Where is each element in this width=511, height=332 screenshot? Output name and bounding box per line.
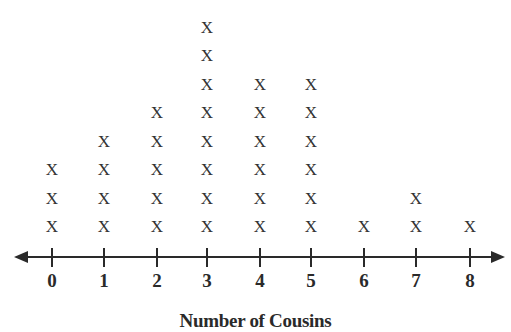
x-mark: X: [250, 161, 270, 178]
x-mark: X: [197, 104, 217, 121]
tick-label: 6: [352, 270, 376, 292]
x-mark: X: [94, 190, 114, 207]
x-mark: X: [147, 133, 167, 150]
tick-label: 3: [195, 270, 219, 292]
x-mark: X: [301, 190, 321, 207]
x-mark: X: [301, 76, 321, 93]
right-arrow-icon: [491, 251, 505, 263]
x-mark: X: [250, 133, 270, 150]
tick-label: 8: [458, 270, 482, 292]
x-mark: X: [197, 190, 217, 207]
x-mark: X: [197, 161, 217, 178]
x-mark: X: [42, 161, 62, 178]
x-mark: X: [42, 218, 62, 235]
x-mark: X: [147, 218, 167, 235]
x-mark: X: [94, 133, 114, 150]
tick-label: 2: [145, 270, 169, 292]
left-arrow-icon: [14, 251, 28, 263]
line-plot: XXXXXXXXXXXXXXXXXXXXXXXXXXXXXXXXXXXX 0 1…: [0, 0, 511, 332]
x-mark: X: [301, 161, 321, 178]
x-mark: X: [250, 218, 270, 235]
x-mark: X: [42, 190, 62, 207]
x-mark: X: [197, 47, 217, 64]
x-mark: X: [197, 133, 217, 150]
x-mark: X: [354, 218, 374, 235]
x-mark: X: [250, 104, 270, 121]
x-mark: X: [301, 104, 321, 121]
x-mark: X: [94, 218, 114, 235]
x-mark: X: [94, 161, 114, 178]
tick-label: 0: [40, 270, 64, 292]
x-mark: X: [197, 76, 217, 93]
tick-label: 7: [404, 270, 428, 292]
x-mark: X: [147, 190, 167, 207]
x-mark: X: [197, 19, 217, 36]
x-mark: X: [406, 190, 426, 207]
x-mark: X: [301, 133, 321, 150]
x-mark: X: [301, 218, 321, 235]
x-mark: X: [147, 104, 167, 121]
x-mark: X: [460, 218, 480, 235]
tick-label: 1: [92, 270, 116, 292]
tick-label: 5: [299, 270, 323, 292]
x-mark: X: [197, 218, 217, 235]
x-mark: X: [406, 218, 426, 235]
tick-label: 4: [248, 270, 272, 292]
x-mark: X: [147, 161, 167, 178]
x-axis-label: Number of Cousins: [0, 310, 511, 332]
x-mark: X: [250, 76, 270, 93]
x-mark: X: [250, 190, 270, 207]
